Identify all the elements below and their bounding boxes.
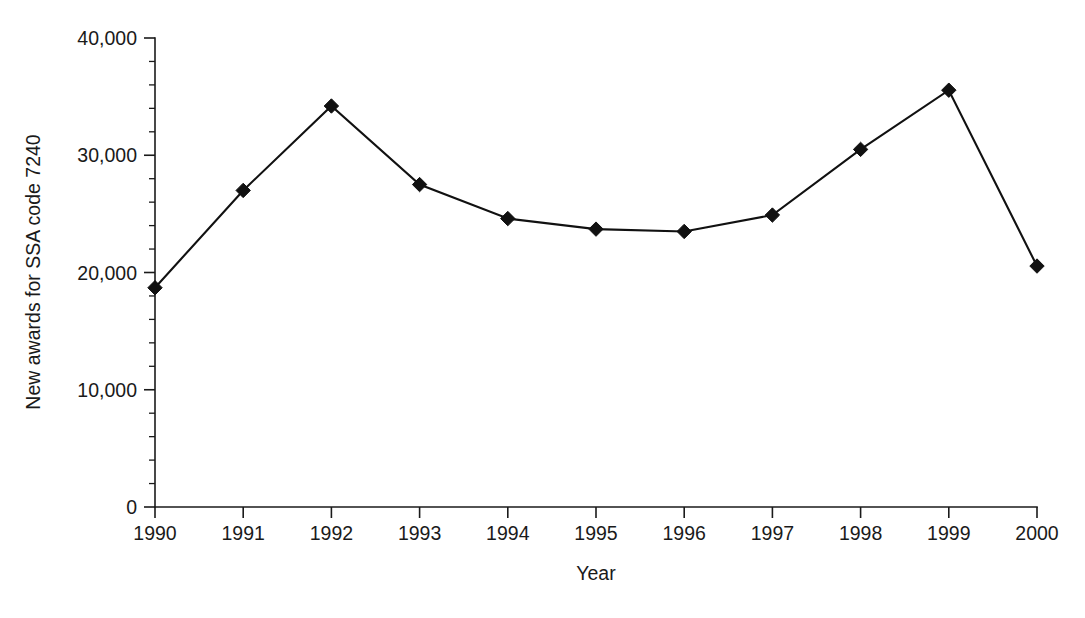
y-tick-label: 40,000 (77, 27, 137, 49)
data-point-marker (942, 83, 956, 97)
series-line-new-awards (155, 90, 1037, 288)
data-series-line (155, 90, 1037, 288)
data-point-marker (1030, 259, 1044, 273)
line-chart-plot: 010,00020,00030,00040,000 19901991199219… (0, 0, 1085, 618)
x-tick-label: 2000 (1015, 522, 1059, 544)
x-tick-label: 1991 (222, 522, 265, 544)
x-tick-label: 1993 (398, 522, 441, 544)
x-tick-label: 1990 (133, 522, 177, 544)
y-tick-label: 30,000 (77, 144, 137, 166)
chart-container: 010,00020,00030,00040,000 19901991199219… (0, 0, 1085, 618)
x-tick-label: 1996 (663, 522, 706, 544)
y-tick-label: 10,000 (77, 379, 137, 401)
x-tick-label: 1997 (751, 522, 794, 544)
x-tick-label: 1998 (839, 522, 882, 544)
y-tick-label: 20,000 (77, 262, 137, 284)
data-markers (148, 83, 1044, 295)
y-axis: 010,00020,00030,00040,000 (77, 27, 155, 518)
x-axis: 1990199119921993199419951996199719981999… (133, 507, 1059, 544)
y-tick-label: 0 (126, 496, 137, 518)
x-tick-label: 1994 (486, 522, 530, 544)
x-tick-label: 1999 (927, 522, 970, 544)
x-tick-label: 1995 (574, 522, 618, 544)
data-point-marker (501, 211, 515, 225)
data-point-marker (589, 222, 603, 236)
x-axis-title: Year (576, 562, 616, 584)
data-point-marker (677, 224, 691, 238)
x-tick-label: 1992 (310, 522, 353, 544)
y-axis-title: New awards for SSA code 7240 (22, 134, 44, 409)
